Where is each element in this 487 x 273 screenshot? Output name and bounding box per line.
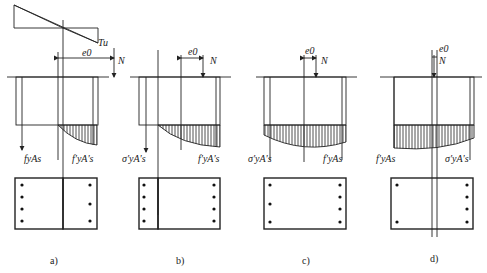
e0-label: e0 (82, 47, 91, 58)
left-force-label: fyAs (24, 153, 41, 164)
strain-diagram (14, 5, 98, 43)
n-label: N (117, 55, 126, 66)
compression-stress-block (158, 125, 220, 147)
right-force-label: f'yA's (72, 153, 94, 164)
e0-label: e0 (305, 45, 314, 56)
caption-b: b) (176, 255, 184, 267)
compression-stress-block (394, 125, 474, 149)
panel-d: e0 N f'yAs σ'yA's d) (376, 43, 482, 265)
section-elevation (16, 77, 98, 125)
panel-a: Tu e0 N fyAs f'yA's a) (7, 5, 126, 267)
right-force-label: σ'yA's (445, 153, 469, 164)
compression-stress-block (58, 125, 97, 145)
section-elevation (139, 77, 220, 125)
left-force-label: f'yAs (376, 153, 395, 164)
rebar-dots (268, 183, 341, 223)
strain-label: Tu (98, 37, 108, 48)
figure-canvas: Tu e0 N fyAs f'yA's a) e0 N σ'yA's (0, 0, 487, 273)
n-label: N (209, 55, 218, 66)
caption-d: d) (430, 253, 438, 265)
e0-label: e0 (188, 46, 197, 57)
caption-c: c) (302, 255, 310, 267)
section-elevation (264, 77, 346, 125)
right-force-label: f'yA's (198, 153, 220, 164)
panel-c: e0 N σ'yA's f'yAs c) (248, 45, 357, 267)
caption-a: a) (50, 255, 58, 267)
e0-label: e0 (439, 43, 448, 54)
compression-stress-block (264, 125, 346, 147)
cross-section (158, 178, 220, 229)
n-label: N (320, 55, 329, 66)
rebar-dots (142, 183, 215, 222)
cross-section (264, 178, 346, 229)
panel-b: e0 N σ'yA's f'yA's b) (122, 46, 231, 267)
left-force-label: σ'yA's (122, 153, 146, 164)
section-elevation (394, 77, 474, 125)
left-force-label: σ'yA's (248, 153, 272, 164)
n-label: N (438, 55, 447, 66)
cross-section (63, 178, 97, 229)
rebar-dots (20, 183, 91, 222)
right-force-label: f'yAs (323, 153, 342, 164)
